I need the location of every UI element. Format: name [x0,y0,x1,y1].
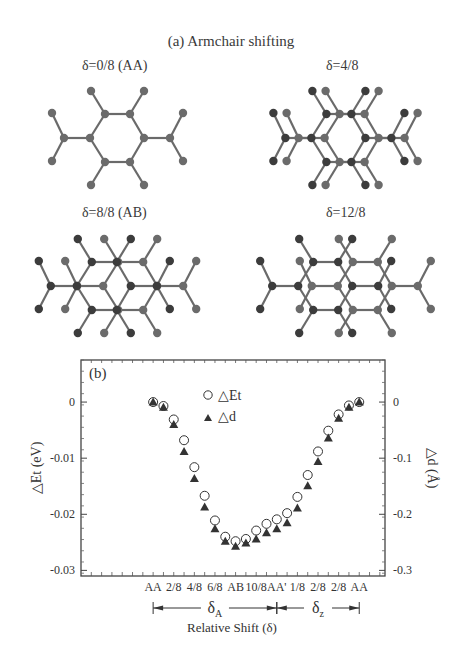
y-right-tick-label: 0 [393,395,399,409]
y-left-tick-label: -0.01 [50,451,75,465]
x-tick-label: AA [351,580,369,594]
x-tick-label: 1/8 [290,580,305,594]
arrow-head-left [277,606,287,611]
x-tick-label: 10/8 [246,580,267,594]
y-left-tick-label: -0.03 [50,563,75,577]
point-delta-et [314,447,323,456]
range-label-subscript: A [215,608,223,619]
legend-label-d: △d [218,409,236,424]
arrow-head-right [267,606,277,611]
x-axis-label: Relative Shift (δ) [187,620,277,635]
point-delta-d [200,502,209,510]
y-axis-label-right: △d (Å) [424,448,440,489]
point-delta-et [252,526,261,535]
range-label: δA [208,599,224,619]
point-delta-et [262,519,271,528]
x-tick-label: AA [144,580,162,594]
range-label-subscript: z [320,608,325,619]
y-right-tick-label: -0.1 [393,451,412,465]
point-delta-d [324,433,333,441]
arrow-head-right [349,606,359,611]
point-delta-d [221,537,230,545]
x-tick-label: 2/8 [331,580,346,594]
point-delta-et [303,471,312,480]
x-tick-label: 2/8 [310,580,325,594]
x-tick-label: 2/8 [166,580,181,594]
legend-label-et: △Et [218,388,242,403]
y-right-tick-label: -0.3 [393,563,412,577]
legend: △Et △d [204,388,242,424]
point-delta-et [283,509,292,518]
x-tick-label: 4/8 [187,580,202,594]
data-series [149,398,364,550]
point-delta-d [293,504,302,512]
shift-energy-chart: 0-0.01-0.02-0.030-0.1-0.2-0.3AA2/84/86/8… [0,0,462,658]
point-delta-d [314,457,323,465]
y-right-tick-label: -0.2 [393,507,412,521]
point-delta-d [210,524,219,532]
x-tick-label: 6/8 [207,580,222,594]
y-left-tick-label: -0.02 [50,507,75,521]
point-delta-d [303,481,312,489]
point-delta-et [200,491,209,500]
point-delta-et [293,492,302,501]
point-delta-et [272,515,281,524]
point-delta-d [272,524,281,532]
arrow-head-left [153,606,163,611]
point-delta-et [210,516,219,525]
point-delta-d [190,474,199,482]
point-delta-d [344,403,353,411]
point-delta-d [252,534,261,542]
range-0: δA [153,599,277,619]
point-delta-et [190,463,199,472]
y-left-tick-label: 0 [69,395,75,409]
point-delta-d [262,528,271,536]
range-label: δz [312,599,325,619]
y-axis-label-left: △Et (eV) [29,441,45,494]
legend-triangle-marker [204,414,212,421]
x-tick-label: AA' [267,580,287,594]
legend-circle-marker [204,391,212,399]
panel-label-b: (b) [89,365,107,382]
x-tick-label: AB [227,580,244,594]
point-delta-d [180,447,189,455]
range-1: δz [277,599,359,619]
range-annotations: δAδz [153,599,359,619]
point-delta-d [283,518,292,526]
point-delta-et [180,436,189,445]
